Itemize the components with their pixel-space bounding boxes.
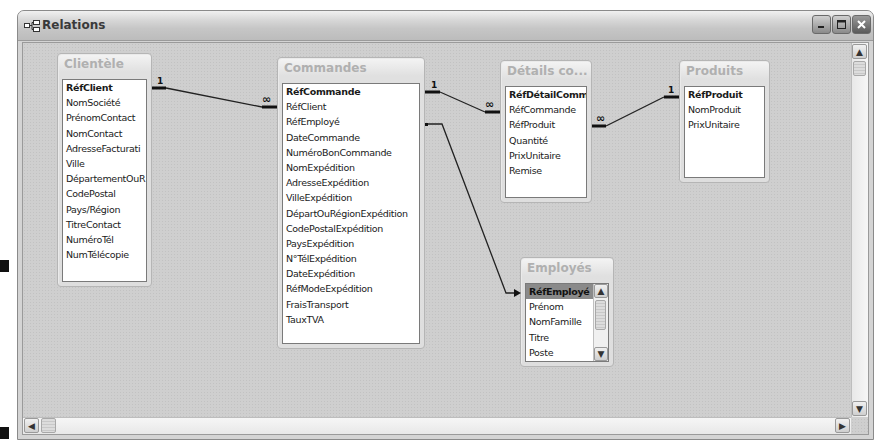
scroll-left-button[interactable]: ◀ [24, 418, 39, 433]
field-item[interactable]: Quantité [506, 133, 586, 148]
edge-marker [0, 427, 9, 439]
field-item[interactable]: NomSociété [63, 95, 146, 110]
scroll-down-button[interactable]: ▼ [852, 401, 867, 416]
field-list-scrollbar[interactable]: ▲ ▼ [593, 284, 608, 361]
table-clientele[interactable]: Clientèle RéfClient NomSociété PrénomCon… [57, 53, 152, 287]
field-item[interactable]: AdresseFacturati [63, 141, 146, 156]
field-item[interactable]: RéfProduit [685, 87, 764, 102]
field-item[interactable]: PrixUnitaire [685, 117, 764, 132]
close-button[interactable] [852, 15, 871, 34]
field-item[interactable]: AdresseExpédition [283, 175, 419, 190]
field-item[interactable]: PaysExpédition [283, 236, 419, 251]
field-item[interactable]: N°TélExpédition [283, 251, 419, 266]
chevron-right-icon: ▶ [839, 421, 846, 431]
scroll-down-button[interactable]: ▼ [594, 347, 608, 361]
field-list[interactable]: RéfDétailCommar RéfCommande RéfProduit Q… [505, 86, 587, 198]
field-item[interactable]: DateCommande [283, 130, 419, 145]
field-item[interactable]: RéfModeExpédition [283, 281, 419, 296]
chevron-down-icon: ▼ [856, 404, 863, 414]
scroll-up-button[interactable]: ▲ [594, 284, 608, 298]
minimize-icon [816, 19, 827, 30]
horizontal-scroll-thumb[interactable] [41, 418, 56, 433]
field-item[interactable]: RéfClient [283, 99, 419, 114]
field-item[interactable]: TauxTVA [283, 312, 419, 327]
table-commandes[interactable]: Commandes RéfCommande RéfClient RéfEmplo… [277, 57, 425, 349]
field-item[interactable]: RéfClient [63, 80, 146, 95]
field-item[interactable]: RéfDétailCommar [506, 87, 586, 102]
field-item[interactable]: RéfCommande [283, 84, 419, 99]
field-item[interactable]: NomProduit [685, 102, 764, 117]
close-icon [856, 19, 867, 30]
field-item[interactable]: CodePostal [63, 186, 146, 201]
scroll-up-button[interactable]: ▲ [852, 44, 867, 59]
field-item[interactable]: RéfEmployé [283, 114, 419, 129]
field-item[interactable]: Remise [506, 163, 586, 178]
field-item[interactable]: NomContact [63, 126, 146, 141]
relationships-icon [24, 20, 40, 32]
field-item[interactable]: TitreContact [63, 217, 146, 232]
field-item[interactable]: PrixUnitaire [506, 148, 586, 163]
field-item[interactable]: VilleExpédition [283, 190, 419, 205]
field-item[interactable]: DateExpédition [283, 266, 419, 281]
chevron-up-icon: ▲ [598, 286, 605, 296]
field-item[interactable]: CodePostalExpédition [283, 221, 419, 236]
field-item[interactable]: DépartementOuR [63, 171, 146, 186]
field-item[interactable]: Pays/Région [63, 202, 146, 217]
table-details-commandes[interactable]: Détails co... RéfDétailCommar RéfCommand… [500, 60, 592, 203]
field-list[interactable]: RéfClient NomSociété PrénomContact NomCo… [62, 79, 147, 282]
scroll-thumb[interactable] [595, 300, 606, 330]
table-produits[interactable]: Produits RéfProduit NomProduit PrixUnita… [679, 60, 770, 183]
vertical-scroll-thumb[interactable] [853, 61, 866, 76]
field-item[interactable]: NuméroBonCommande [283, 145, 419, 160]
field-item[interactable]: PrénomContact [63, 110, 146, 125]
edge-marker [0, 260, 9, 272]
table-title: Employés [527, 261, 592, 275]
field-item[interactable]: RéfProduit [506, 117, 586, 132]
vertical-scrollbar[interactable]: ▲ ▼ [851, 43, 868, 417]
scroll-right-button[interactable]: ▶ [835, 418, 850, 433]
field-item[interactable]: RéfCommande [506, 102, 586, 117]
table-title: Clientèle [64, 57, 124, 71]
maximize-icon [836, 19, 847, 30]
chevron-up-icon: ▲ [856, 47, 863, 57]
window-title: Relations [42, 18, 105, 32]
field-item[interactable]: NomExpédition [283, 160, 419, 175]
field-item[interactable]: Ville [63, 156, 146, 171]
field-item[interactable]: DépartOuRégionExpédition [283, 206, 419, 221]
field-list[interactable]: RéfProduit NomProduit PrixUnitaire [684, 86, 765, 178]
maximize-button[interactable] [832, 15, 851, 34]
field-item[interactable]: FraisTransport [283, 297, 419, 312]
table-employes[interactable]: Employés RéfEmployé Prénom NomFamille Ti… [520, 257, 614, 367]
table-title: Produits [686, 64, 743, 78]
horizontal-scrollbar[interactable]: ◀ ▶ [23, 417, 851, 434]
minimize-button[interactable] [812, 15, 831, 34]
field-list[interactable]: RéfEmployé Prénom NomFamille Titre Poste… [525, 283, 609, 362]
field-item[interactable]: NuméroTél [63, 232, 146, 247]
table-title: Détails co... [507, 64, 588, 78]
table-title: Commandes [284, 61, 367, 75]
field-item[interactable]: NumTélécopie [63, 247, 146, 262]
title-bar[interactable]: Relations [18, 11, 873, 41]
chevron-down-icon: ▼ [598, 349, 605, 359]
chevron-left-icon: ◀ [28, 421, 35, 431]
field-list[interactable]: RéfCommande RéfClient RéfEmployé DateCom… [282, 83, 420, 344]
